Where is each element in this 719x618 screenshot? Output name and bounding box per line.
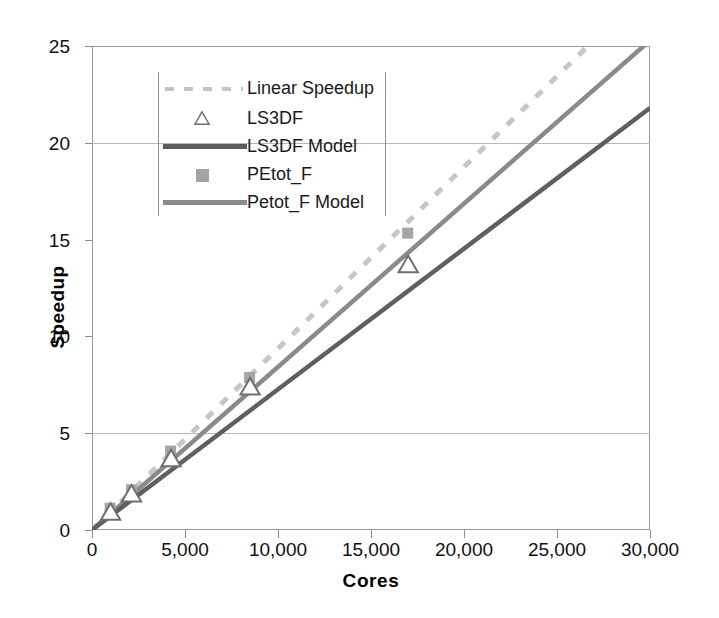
triangle-marker-key-wrap [159,104,247,132]
square-marker-key-wrap [159,160,247,188]
mid-line-key-wrap [159,188,247,216]
legend-label-ls3df: LS3DF [247,109,303,127]
legend-item-petot-f: PEtot_F [159,160,387,188]
legend-label-petot-f: PEtot_F [247,165,312,183]
legend-item-ls3df-model: LS3DF Model [159,132,387,160]
legend-item-ls3df: LS3DF [159,104,387,132]
speedup-chart-figure: 25 20 15 10 5 0 Speedup 0 5,000 10,000 1… [0,0,719,618]
dark-line-key [163,144,247,149]
legend-label-ls3df-model: LS3DF Model [247,137,357,155]
legend-label-petot-f-model: Petot_F Model [247,193,364,211]
square-marker-key [196,169,209,182]
dashed-line-key [165,87,243,91]
dashed-line-key-wrap [159,74,247,102]
chart-legend: Linear Speedup LS3DF LS3DF Model PEtot_F [158,72,386,216]
mid-line-key [163,200,247,205]
legend-item-linear-speedup: Linear Speedup [159,74,387,102]
triangle-marker-key [193,110,211,126]
legend-item-petot-f-model: Petot_F Model [159,188,387,216]
legend-label-linear-speedup: Linear Speedup [247,79,374,97]
marker-petot-f-5 [402,228,413,239]
dark-line-key-wrap [159,132,247,160]
